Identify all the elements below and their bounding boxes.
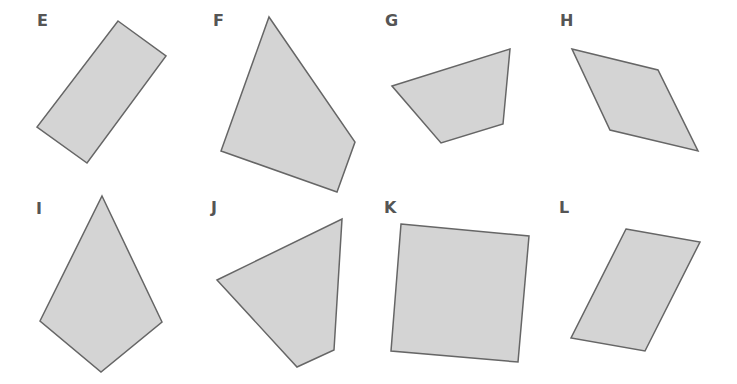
label-l: L <box>559 200 569 216</box>
quadrilateral-diagram: E F G H I J K L <box>0 0 737 384</box>
label-i: I <box>36 201 42 217</box>
shape-i <box>40 196 162 372</box>
shape-h <box>572 49 698 151</box>
label-h: H <box>560 13 573 29</box>
shape-e <box>37 21 166 163</box>
label-k: K <box>384 200 396 216</box>
shape-l <box>571 229 700 351</box>
label-g: G <box>385 13 398 29</box>
shape-g <box>392 49 510 143</box>
label-e: E <box>37 13 48 29</box>
shape-j <box>217 219 342 367</box>
shapes-layer <box>0 0 737 384</box>
label-j: J <box>211 200 217 216</box>
shape-k <box>391 224 529 362</box>
label-f: F <box>213 13 224 29</box>
shape-f <box>221 17 355 192</box>
